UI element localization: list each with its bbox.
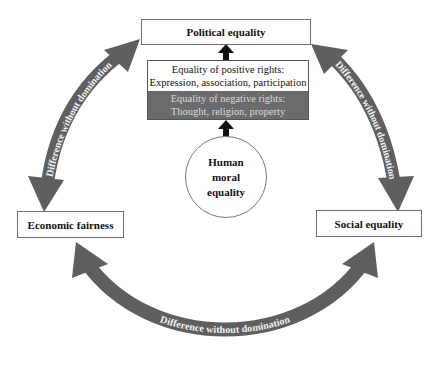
negative-rights-items: Thought, religion, property: [171, 105, 285, 118]
rights-box: Equality of positive rights: Expression,…: [147, 60, 309, 120]
node-label: Economic fairness: [28, 219, 114, 231]
bottom-double-arrow: Difference without domination: [72, 242, 378, 335]
node-political-equality: Political equality: [141, 19, 311, 45]
node-economic-fairness: Economic fairness: [17, 211, 124, 238]
svg-text:Difference without domination: Difference without domination: [44, 59, 114, 178]
positive-rights-items: Expression, association, participation: [150, 76, 307, 89]
arrowhead-down-icon: [28, 176, 64, 212]
node-social-equality: Social equality: [316, 210, 422, 237]
left-arrow-label: Difference without domination: [44, 59, 114, 178]
arrowhead-up-icon: [218, 44, 234, 53]
core-line-2: moral: [212, 170, 240, 185]
positive-rights-title: Equality of positive rights:: [172, 63, 284, 76]
arrow-positive-to-political: [218, 44, 234, 61]
node-label: Political equality: [186, 26, 265, 38]
core-line-3: equality: [207, 185, 245, 200]
negative-rights-section: Equality of negative rights: Thought, re…: [148, 91, 308, 119]
svg-text:Difference without domination: Difference without domination: [333, 59, 398, 181]
positive-rights-section: Equality of positive rights: Expression,…: [148, 61, 308, 91]
core-line-1: Human: [208, 155, 243, 170]
right-double-arrow: Difference without domination: [311, 44, 414, 212]
node-human-moral-equality: Human moral equality: [185, 136, 267, 218]
arrow-core-to-negative: [218, 120, 234, 137]
arrowhead-up-icon: [218, 120, 234, 129]
negative-rights-title: Equality of negative rights:: [171, 92, 286, 105]
right-arrow-label: Difference without domination: [333, 59, 398, 181]
node-label: Social equality: [335, 218, 404, 230]
arrowhead-down-icon: [378, 176, 414, 212]
left-double-arrow: Difference without domination: [28, 39, 140, 212]
